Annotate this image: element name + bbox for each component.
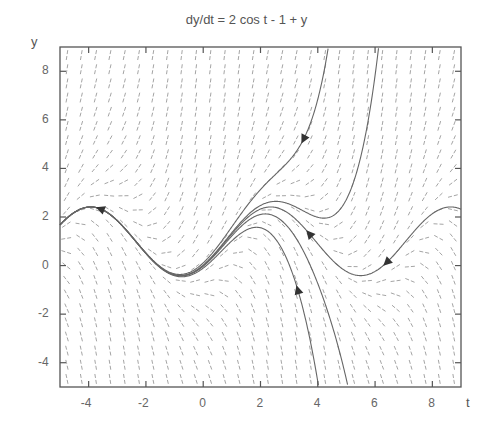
slope-segment (80, 105, 83, 117)
slope-segment (353, 48, 355, 60)
slope-segment (123, 346, 125, 358)
slope-segment (237, 318, 242, 329)
slope-segment (338, 105, 341, 117)
slope-segment (438, 374, 440, 386)
slope-segment (94, 289, 98, 300)
slope-segment (107, 134, 113, 145)
slope-segment (236, 304, 242, 315)
slope-segment (436, 262, 443, 272)
slope-segment (208, 346, 213, 357)
slope-segment (94, 275, 98, 286)
slope-segment (394, 204, 398, 215)
slope-segment (322, 261, 328, 271)
slope-segment (391, 293, 402, 297)
slope-segment (438, 317, 441, 329)
slope-segment (123, 317, 126, 329)
slope-segment (305, 195, 317, 197)
slope-segment (424, 48, 426, 60)
slope-segment (195, 162, 198, 174)
slope-segment (207, 332, 213, 342)
slope-segment (352, 346, 356, 357)
slope-segment (419, 237, 431, 240)
slope-segment (453, 62, 455, 74)
direction-arrows (96, 133, 393, 295)
slope-segment (353, 105, 355, 117)
slope-segment (137, 91, 140, 103)
slope-segment (166, 105, 168, 117)
slope-segment (165, 304, 171, 315)
slope-segment (263, 234, 272, 242)
slope-segment (108, 275, 112, 286)
slope-segment (294, 105, 298, 116)
slope-segment (410, 91, 412, 103)
x-tick-label: 6 (371, 396, 378, 410)
slope-segment (395, 190, 399, 201)
x-tick-label: -4 (81, 396, 92, 410)
slope-segment (410, 62, 412, 74)
slope-segment (410, 133, 413, 145)
y-tick-label: -2 (38, 306, 49, 320)
slope-segment (195, 105, 197, 117)
slope-segment (181, 105, 183, 117)
slope-segment (264, 162, 271, 172)
slope-segment (109, 48, 111, 60)
slope-segment (281, 360, 283, 372)
slope-segment (80, 48, 82, 60)
slope-segment (434, 235, 445, 241)
slope-segment (336, 290, 342, 301)
slope-segment (224, 91, 226, 103)
slope-segment (295, 48, 297, 60)
slope-segment (395, 147, 398, 159)
slope-segment (338, 119, 341, 131)
slope-segment (93, 261, 98, 272)
slope-segment (396, 48, 397, 60)
slope-segment (395, 119, 397, 131)
slope-segment (137, 289, 141, 300)
slope-segment (147, 237, 159, 239)
slope-segment (209, 119, 211, 131)
slope-segment (94, 119, 98, 130)
slope-segment (281, 303, 284, 315)
slope-segment (250, 276, 256, 286)
slope-segment (119, 179, 130, 185)
slope-segment (94, 303, 97, 315)
slope-segment (452, 289, 456, 300)
slope-segment (222, 219, 228, 230)
slope-segment (252, 318, 256, 329)
slope-segment (224, 48, 226, 60)
slope-segment (79, 148, 84, 159)
slope-segment (63, 263, 72, 271)
slope-segment (337, 318, 341, 329)
slope-segment (92, 234, 99, 243)
slope-segment (348, 250, 359, 255)
slope-segment (238, 62, 240, 74)
slope-segment (350, 219, 357, 229)
slope-segment (309, 275, 313, 286)
slope-segment (219, 280, 231, 282)
slope-segment (191, 306, 201, 313)
slope-segment (162, 265, 173, 269)
y-tick-label: 8 (42, 63, 49, 77)
slope-segment (362, 280, 374, 281)
slope-segment (324, 346, 327, 358)
slope-segment (309, 317, 312, 329)
slope-segment (210, 76, 212, 88)
slope-segment (324, 91, 327, 103)
slope-segment (266, 119, 270, 130)
y-tick-label: 2 (42, 209, 49, 223)
slope-segment (120, 163, 128, 172)
slope-segment (281, 77, 284, 89)
slope-segment (80, 332, 83, 344)
slope-segment (252, 91, 254, 103)
slope-segment (366, 204, 370, 215)
slope-segment (448, 209, 460, 212)
slope-segment (438, 77, 440, 89)
slope-segment (353, 62, 355, 74)
slope-segment (166, 119, 169, 131)
slope-segment (123, 289, 126, 301)
slope-segment (150, 176, 156, 186)
slope-segment (337, 304, 342, 315)
slope-segment (123, 332, 125, 344)
slope-segment (366, 374, 369, 386)
slope-segment (252, 360, 255, 372)
